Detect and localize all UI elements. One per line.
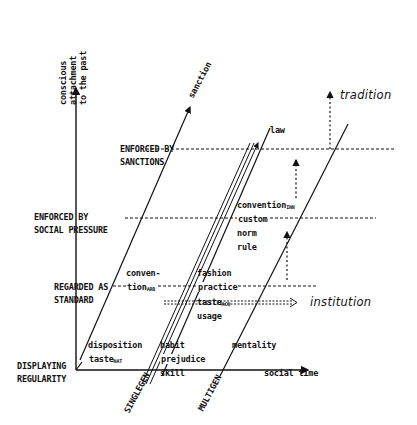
level-sanctions: ENFORCED BY SANCTIONS — [120, 144, 174, 167]
term-mentality: mentality — [232, 340, 276, 350]
level-line: ENFORCED BY — [120, 144, 174, 154]
term-tion-arb: tionARB — [126, 282, 156, 294]
level-standard: REGARDED AS STANDARD — [54, 282, 108, 305]
singlegen-diagonal — [162, 128, 270, 376]
term-text: convention — [237, 200, 286, 210]
level-line: ENFORCED BY — [34, 212, 108, 222]
term-usage: usage — [197, 311, 222, 321]
term-convention-inn: conventionINN — [237, 200, 295, 212]
level-social-pressure: ENFORCED BY SOCIAL PRESSURE — [34, 212, 108, 235]
term-disposition: disposition — [88, 340, 142, 350]
term-skill: skill — [160, 368, 185, 378]
term-subscript: ACQ — [222, 301, 230, 307]
term-taste-acq: tasteACQ — [197, 297, 230, 309]
term-subscript: ARB — [147, 286, 155, 292]
outcome-tradition: tradition — [340, 90, 392, 100]
level-line: STANDARD — [54, 295, 108, 305]
term-practice: practice — [197, 282, 238, 292]
level-line: DISPLAYING — [17, 361, 66, 371]
horizontal-axis-label: social time — [264, 368, 318, 378]
term-subscript: INN — [286, 204, 294, 210]
axis-label-line: conscious — [58, 5, 68, 105]
term-prejudice: prejudice — [160, 354, 206, 364]
term-subscript: NAT — [114, 358, 122, 364]
level-line: REGULARITY — [17, 374, 66, 384]
term-custom: custom — [237, 214, 269, 224]
term-conven: conven- — [126, 268, 160, 278]
term-habit: habit — [160, 340, 185, 350]
axis-label-line: attachment — [68, 5, 78, 105]
term-taste-nat: tasteNAT — [88, 354, 123, 366]
term-fashion: fashion — [197, 268, 231, 278]
level-line: SANCTIONS — [120, 157, 174, 167]
term-text: taste — [197, 297, 222, 307]
outcome-institution: institution — [310, 297, 371, 307]
level-line: SOCIAL PRESSURE — [34, 225, 108, 235]
axis-label-line: to the past — [78, 5, 88, 105]
term-text: tion — [127, 282, 147, 292]
level-line: REGARDED AS — [54, 282, 108, 292]
term-text: taste — [89, 354, 114, 364]
term-norm: norm — [237, 228, 257, 238]
vertical-axis-label: conscious attachment to the past — [58, 5, 88, 105]
term-law: law — [270, 125, 285, 135]
level-regularity: DISPLAYING REGULARITY — [17, 361, 66, 384]
term-rule: rule — [237, 242, 257, 252]
